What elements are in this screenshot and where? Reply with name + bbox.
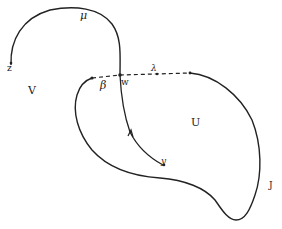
label-lambda: λ xyxy=(151,64,157,73)
lambda-dot xyxy=(156,73,158,75)
label-U: U xyxy=(191,117,200,128)
curve-w-to-y xyxy=(120,75,163,165)
point-beta-dot xyxy=(90,76,93,79)
label-y: y xyxy=(161,157,166,166)
curve-lambda-dashed xyxy=(92,73,190,78)
curve-J-boundary xyxy=(75,73,260,220)
label-w: w xyxy=(121,78,129,87)
label-beta: β xyxy=(100,80,106,91)
diagram-svg xyxy=(0,0,282,229)
label-mu: μ xyxy=(80,10,87,21)
label-J: J xyxy=(269,181,273,190)
diagram-canvas: μ z V β w λ U y J xyxy=(0,0,282,229)
curve-mu xyxy=(11,8,120,75)
label-V: V xyxy=(28,85,36,96)
label-z: z xyxy=(7,64,12,73)
